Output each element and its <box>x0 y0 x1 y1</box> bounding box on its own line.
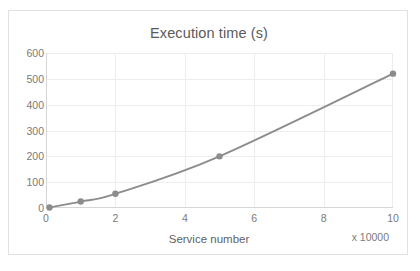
data-point-marker <box>216 153 222 159</box>
y-axis-tick-label: 400 <box>10 99 44 110</box>
series-line-execution-time <box>46 53 393 208</box>
x-axis-tick-label: 4 <box>165 213 205 224</box>
y-axis-tick-label: 600 <box>10 48 44 59</box>
data-point-marker <box>78 198 84 204</box>
y-axis-tick-label: 300 <box>10 125 44 136</box>
x-axis-tick-label: 0 <box>26 213 66 224</box>
x-axis-tick-label: 6 <box>234 213 274 224</box>
y-axis-tick-label: 0 <box>10 203 44 214</box>
x-axis-label: Service number <box>9 233 409 245</box>
x-axis-tick-labels: 0246810 <box>46 213 393 227</box>
y-axis-tick-label: 500 <box>10 74 44 85</box>
chart-title: Execution time (s) <box>9 25 409 41</box>
x-axis-multiplier-note: x 10000 <box>352 231 389 243</box>
chart-frame: Execution time (s) 0100200300400500600 0… <box>8 10 408 255</box>
chart-screenshot: Execution time (s) 0100200300400500600 0… <box>0 0 420 271</box>
data-point-marker <box>46 204 52 210</box>
x-axis-tick-label: 2 <box>95 213 135 224</box>
data-point-marker <box>112 191 118 197</box>
y-axis-tick-labels: 0100200300400500600 <box>9 53 44 208</box>
x-axis-tick-label: 8 <box>304 213 344 224</box>
y-axis-tick-label: 100 <box>10 177 44 188</box>
data-point-marker <box>390 70 396 76</box>
y-axis-tick-label: 200 <box>10 151 44 162</box>
plot-area <box>46 53 393 208</box>
series-line <box>49 74 393 208</box>
x-axis-tick-label: 10 <box>373 213 413 224</box>
